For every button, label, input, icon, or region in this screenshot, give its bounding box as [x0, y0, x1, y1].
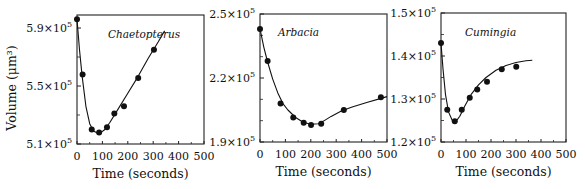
x-tick-label: 0	[257, 148, 264, 161]
data-point	[467, 95, 473, 101]
x-axis-label: Time (seconds)	[92, 166, 188, 181]
data-point	[308, 122, 314, 128]
data-point	[74, 16, 80, 22]
data-point	[444, 107, 450, 113]
x-axis-label: Time (seconds)	[275, 164, 371, 179]
data-point	[111, 111, 117, 117]
x-tick-label: 400	[168, 150, 189, 163]
x-tick-label: 400	[351, 148, 372, 161]
figure: 01002003004005005.1×1055.5×1055.9×105Cha…	[0, 0, 585, 189]
data-point	[290, 114, 296, 120]
data-point	[378, 94, 384, 100]
data-point	[301, 120, 307, 126]
x-tick-label: 300	[506, 148, 527, 161]
y-tick-label: 1.3×105	[390, 91, 436, 106]
data-point	[438, 40, 444, 46]
x-tick-label: 100	[92, 150, 113, 163]
data-point	[151, 47, 157, 53]
data-point	[257, 26, 263, 32]
panel-chaetopterus: 01002003004005005.1×1055.5×1055.9×105Cha…	[26, 15, 214, 181]
x-tick-label: 400	[531, 148, 552, 161]
fit-curve	[260, 29, 387, 124]
x-tick-label: 500	[194, 150, 215, 163]
panel-title: Chaetopterus	[108, 28, 181, 40]
data-point	[513, 64, 519, 70]
y-tick-label: 5.1×105	[26, 136, 72, 151]
y-tick-label: 2.5×105	[209, 6, 255, 21]
x-tick-label: 500	[556, 148, 577, 161]
panel-cumingia: 01002003004005001.2×1051.3×1051.4×1051.5…	[390, 5, 576, 179]
data-point	[484, 79, 490, 85]
x-tick-label: 500	[377, 148, 398, 161]
y-tick-label: 2.2×105	[209, 70, 255, 85]
x-tick-label: 200	[117, 150, 138, 163]
y-axis-label: Volume (μm³)	[4, 45, 19, 131]
data-point	[318, 121, 324, 127]
x-tick-label: 0	[74, 150, 81, 163]
x-tick-label: 200	[481, 148, 502, 161]
data-point	[121, 103, 127, 109]
data-point	[499, 66, 505, 72]
panel-title: Cumingia	[465, 26, 516, 38]
y-tick-label: 1.5×105	[390, 5, 436, 20]
data-point	[135, 75, 141, 81]
y-tick-label: 1.2×105	[390, 134, 436, 149]
x-tick-label: 100	[456, 148, 477, 161]
y-tick-label: 5.9×105	[26, 20, 72, 35]
data-point	[265, 58, 271, 64]
y-tick-label: 1.4×105	[390, 48, 436, 63]
x-tick-label: 200	[300, 148, 321, 161]
y-tick-label: 5.5×105	[26, 78, 72, 93]
y-tick-label: 1.9×105	[209, 134, 255, 149]
data-point	[104, 124, 110, 130]
data-point	[80, 71, 86, 77]
data-point	[341, 107, 347, 113]
data-point	[474, 87, 480, 93]
x-tick-label: 300	[326, 148, 347, 161]
data-point	[96, 129, 102, 135]
x-tick-label: 100	[275, 148, 296, 161]
plot-canvas: 01002003004005005.1×1055.5×1055.9×105Cha…	[0, 0, 585, 189]
data-point	[452, 118, 458, 124]
data-point	[278, 101, 284, 107]
x-tick-label: 0	[438, 148, 445, 161]
x-tick-label: 300	[143, 150, 164, 163]
data-point	[459, 107, 465, 113]
x-axis-label: Time (seconds)	[455, 164, 551, 179]
panel-title: Arbacia	[277, 26, 319, 38]
data-point	[89, 127, 95, 133]
panel-arbacia: 01002003004005001.9×1052.2×1052.5×105Arb…	[209, 6, 397, 179]
